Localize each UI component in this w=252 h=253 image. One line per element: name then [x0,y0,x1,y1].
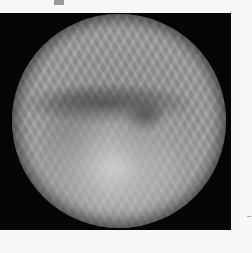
edge-tick-mark [247,216,251,217]
top-marker [54,0,64,5]
image-frame [0,13,231,230]
circular-image [12,14,226,228]
